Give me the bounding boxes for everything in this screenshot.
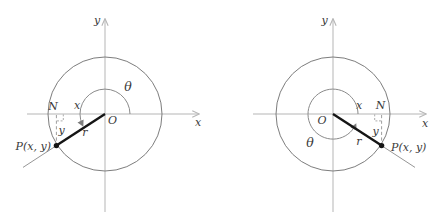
radius-label: r <box>82 126 88 139</box>
right-angle-mark <box>375 114 382 121</box>
point-dot <box>54 143 59 148</box>
foot-point-label: N <box>47 100 58 113</box>
point-label: P(x, y) <box>390 141 426 154</box>
point-dot <box>379 143 384 148</box>
y-distance-label: y <box>371 125 379 138</box>
radius-label: r <box>356 135 362 148</box>
trig-angle-diagrams: y x θ x O N y r P(x, y) y x θ x O N y r … <box>0 0 448 224</box>
theta-label: θ <box>306 135 314 150</box>
figure: y x θ x O N y r P(x, y) y x θ x O N y r … <box>0 0 448 224</box>
right-diagram: y x θ x O N y r P(x, y) <box>253 14 429 212</box>
x-distance-label: x <box>74 99 81 112</box>
right-angle-mark <box>57 114 64 121</box>
theta-label: θ <box>124 79 132 94</box>
y-distance-label: y <box>57 124 65 137</box>
point-label: P(x, y) <box>15 140 51 153</box>
origin-label: O <box>317 114 326 127</box>
y-axis-label: y <box>93 14 101 27</box>
origin-label: O <box>108 114 117 127</box>
x-axis-label: x <box>195 116 202 129</box>
x-axis-label: x <box>422 117 429 130</box>
left-diagram: y x θ x O N y r P(x, y) <box>15 14 202 212</box>
y-axis-label: y <box>320 14 328 27</box>
foot-point-label: N <box>375 99 386 112</box>
x-distance-label: x <box>356 99 363 112</box>
